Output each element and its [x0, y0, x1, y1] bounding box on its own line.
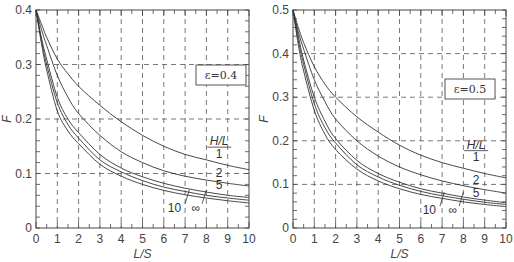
x-tick-label: 2 [332, 232, 339, 246]
chart-eps-0-4: 01234567891000.10.20.30.4L/SFH/L12510∞ε=… [0, 0, 257, 262]
y-tick-label: 0.4 [15, 3, 32, 17]
x-tick-label: 8 [203, 232, 210, 246]
x-tick-label: 3 [354, 232, 361, 246]
y-tick-label: 0.3 [272, 90, 289, 104]
y-tick-label: 0.4 [272, 47, 289, 61]
x-tick-label: 7 [439, 232, 446, 246]
curve-label: H/L [210, 134, 229, 148]
y-tick-label: 0.1 [272, 177, 289, 191]
x-tick-label: 9 [481, 232, 488, 246]
x-tick-label: 4 [375, 232, 382, 246]
x-tick-label: 6 [160, 232, 167, 246]
x-tick-label: 1 [54, 232, 61, 246]
y-axis-label: F [0, 115, 14, 123]
curve-label: ∞ [448, 203, 457, 217]
x-tick-label: 10 [242, 232, 256, 246]
x-tick-label: 9 [224, 232, 231, 246]
x-tick-label: 6 [417, 232, 424, 246]
epsilon-label: ε=0.4 [205, 69, 237, 82]
curve-label: 1 [216, 147, 223, 161]
y-tick-label: 0.2 [272, 134, 289, 148]
x-tick-label: 5 [139, 232, 146, 246]
x-tick-label: 3 [97, 232, 104, 246]
chart-canvas: 01234567891000.10.20.30.4L/SFH/L12510∞ε=… [0, 0, 257, 262]
curve-label: ∞ [191, 201, 200, 215]
x-tick-label: 10 [499, 232, 513, 246]
x-tick-label: 7 [182, 232, 189, 246]
curve-label: 10 [168, 201, 182, 215]
y-tick-label: 0 [282, 221, 289, 235]
y-tick-label: 0.3 [15, 58, 32, 72]
x-tick-label: 8 [460, 232, 467, 246]
x-axis-label: L/S [133, 247, 151, 261]
y-tick-label: 0 [25, 221, 32, 235]
y-axis-label: F [257, 115, 271, 123]
x-axis-label: L/S [390, 247, 408, 261]
x-tick-label: 2 [75, 232, 82, 246]
epsilon-label: ε=0.5 [454, 83, 486, 96]
y-tick-label: 0.2 [15, 112, 32, 126]
x-tick-label: 0 [33, 232, 40, 246]
curve-label: 5 [216, 178, 223, 192]
x-tick-label: 0 [290, 232, 297, 246]
x-tick-label: 4 [118, 232, 125, 246]
chart-eps-0-5: 01234567891000.10.20.30.40.5L/SFH/L12510… [257, 0, 514, 262]
y-tick-label: 0.1 [15, 167, 32, 181]
curve-label: 10 [423, 203, 437, 217]
curve-label: 1 [473, 150, 480, 164]
chart-canvas: 01234567891000.10.20.30.40.5L/SFH/L12510… [257, 0, 514, 262]
x-tick-label: 1 [311, 232, 318, 246]
x-tick-label: 5 [396, 232, 403, 246]
y-tick-label: 0.5 [272, 3, 289, 17]
curve-label: 5 [473, 186, 480, 200]
